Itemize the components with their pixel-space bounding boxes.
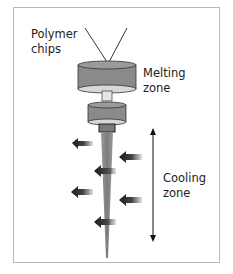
arrow-left-icon [72,138,93,149]
melting-cylinder-icon [78,61,136,93]
arrow-left-icon [119,194,142,206]
arrow-left-icon [119,151,142,163]
label-cooling-zone: Cooling zone [163,171,206,201]
connector-pipe-icon [102,91,112,101]
label-polymer-chips: Polymer chips [31,27,78,57]
arrow-left-icon [71,186,93,198]
nozzle-icon [99,124,115,132]
label-melting-zone: Melting zone [143,66,186,96]
spinneret-cylinder-icon [88,102,126,125]
cooling-zone-extent-arrow-icon [150,128,156,242]
fibre-filament-icon [101,132,113,258]
feed-lines-icon [85,28,127,62]
